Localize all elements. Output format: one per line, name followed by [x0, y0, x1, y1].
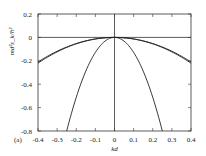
y-tick-label: -0.4	[21, 81, 33, 89]
panel-label: (a)	[14, 136, 22, 144]
x-tick-label: 0.1	[129, 136, 138, 144]
x-tick-label: -0.2	[71, 136, 83, 144]
y-tick-label: -0.8	[21, 128, 33, 136]
y-axis-label: md²ε_k/ħ²	[8, 27, 16, 55]
x-tick-label: -0.4	[32, 136, 44, 144]
x-tick-label: 0.3	[168, 136, 177, 144]
y-tick-label: -0.2	[21, 57, 33, 65]
x-tick-label: 0.2	[148, 136, 157, 144]
chart: -0.4-0.3-0.2-0.100.10.20.30.40.20-0.2-0.…	[0, 0, 206, 156]
y-tick-label: 0	[29, 34, 33, 42]
x-tick-label: 0.4	[187, 136, 196, 144]
x-tick-label: 0	[113, 136, 117, 144]
x-tick-label: -0.3	[52, 136, 64, 144]
x-tick-label: -0.1	[90, 136, 102, 144]
plot-frame	[38, 14, 191, 131]
axis-labels: -0.4-0.3-0.2-0.100.10.20.30.40.20-0.2-0.…	[8, 11, 196, 154]
x-axis-label: kd	[111, 145, 118, 153]
y-tick-label: 0.2	[23, 11, 32, 19]
y-tick-label: -0.6	[21, 104, 33, 112]
